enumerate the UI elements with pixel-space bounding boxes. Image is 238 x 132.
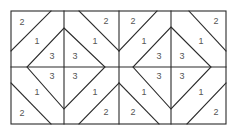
label-b1-tr-side: 1 [92, 36, 97, 46]
block-2-tl-corner-line [119, 11, 157, 51]
label-b2-bl-side: 1 [141, 87, 146, 97]
label-b2-tr-corner: 2 [213, 16, 218, 26]
label-b1-br-corner: 2 [103, 107, 108, 117]
block-1-tr-corner-line [79, 11, 119, 51]
label-b1-bl-corner: 2 [19, 108, 24, 118]
label-b1-tl-side: 1 [34, 36, 39, 46]
label-b2-tr-side: 1 [198, 36, 203, 46]
label-b2-tl-side: 1 [141, 36, 146, 46]
label-b1-tr-corner: 2 [103, 16, 108, 26]
label-b1-tl-corner: 2 [19, 17, 24, 27]
label-b2-bl-corner: 2 [130, 107, 135, 117]
label-b2-br-corner: 2 [213, 107, 218, 117]
label-b1-bl-side: 1 [34, 87, 39, 97]
label-b2-center-bl: 3 [156, 71, 161, 81]
block-1-br-corner-line [79, 83, 119, 124]
block-1-bl-corner-line [11, 83, 51, 124]
label-b1-center-br: 3 [72, 71, 77, 81]
quilt-block-diagram: 2 2 1 1 3 3 3 3 1 1 2 2 2 2 1 1 3 3 3 3 … [0, 0, 238, 132]
label-b1-br-side: 1 [92, 87, 97, 97]
label-b2-tl-corner: 2 [130, 16, 135, 26]
label-b2-center-tr: 3 [179, 51, 184, 61]
block-2-br-corner-line [187, 83, 226, 124]
label-b1-center-bl: 3 [49, 71, 54, 81]
block-1-tl-corner-line [11, 11, 51, 51]
label-b1-center-tl: 3 [49, 51, 54, 61]
label-b2-center-br: 3 [179, 71, 184, 81]
label-b2-br-side: 1 [198, 87, 203, 97]
label-b2-center-tl: 3 [156, 51, 161, 61]
label-b1-center-tr: 3 [72, 51, 77, 61]
block-2-tr-corner-line [189, 11, 226, 51]
